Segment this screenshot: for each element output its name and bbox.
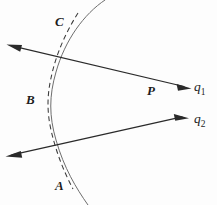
ray-label-q1-subscript: 1	[201, 87, 206, 97]
point-label-b: B	[26, 93, 35, 106]
point-label-p: P	[147, 84, 155, 97]
ray-label-q2-base: q	[194, 111, 201, 126]
ray-label-q1-base: q	[194, 79, 201, 94]
ray-label-q2: q2	[194, 112, 206, 129]
dashed-curve	[48, 13, 78, 189]
ray-q1-end-arrowhead	[177, 84, 192, 91]
ray-label-q2-subscript: 2	[201, 119, 206, 129]
ray-q2-line	[12, 117, 182, 155]
ray-q1-line	[13, 46, 184, 86]
point-label-a: A	[55, 179, 64, 192]
point-label-c: C	[55, 15, 64, 28]
ray-q2-end-arrowhead	[174, 114, 189, 121]
solid-arc-curve	[51, 0, 105, 205]
ray-label-q1: q1	[194, 80, 206, 97]
ray-q1-start-arrowhead	[7, 45, 23, 52]
ray-q2-start-arrowhead	[6, 151, 23, 158]
geometry-figure: C B A P q1 q2	[0, 0, 217, 205]
